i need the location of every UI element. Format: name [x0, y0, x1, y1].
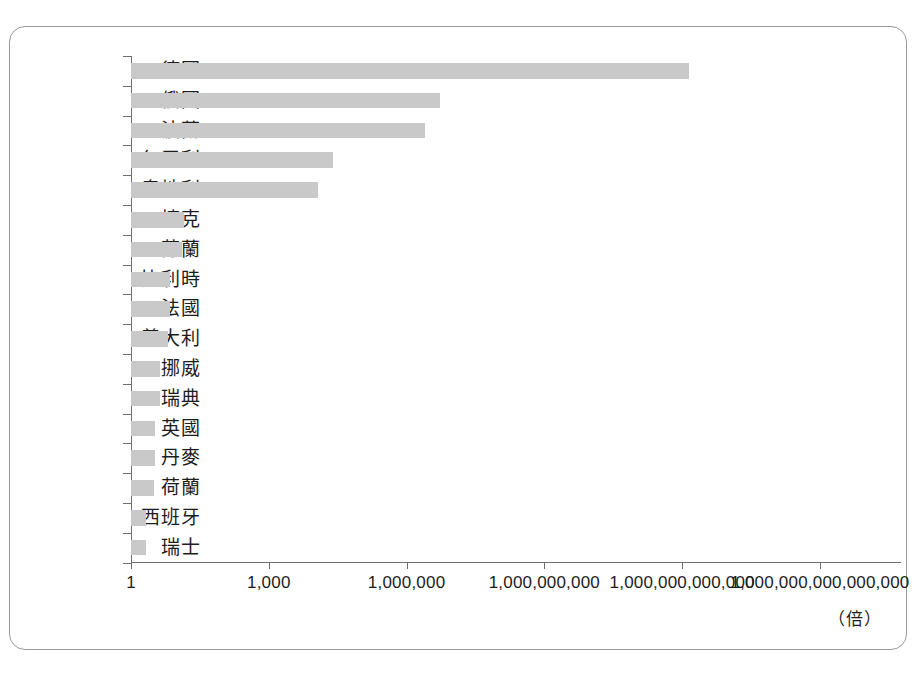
y-axis-tick	[123, 384, 131, 385]
bar	[131, 242, 182, 258]
bar	[131, 301, 170, 317]
y-axis-tick	[123, 205, 131, 206]
x-axis-unit-label: （倍）	[828, 605, 882, 630]
bar	[131, 391, 160, 407]
y-axis-tick	[123, 235, 131, 236]
x-axis-tick	[269, 562, 270, 569]
bar	[131, 450, 155, 466]
x-axis-tick-label: 1,000,000,000,000,000	[730, 573, 909, 593]
category-label: 荷蘭	[161, 473, 201, 503]
x-axis-tick-label: 1,000,000	[368, 573, 445, 593]
category-label: 挪威	[161, 354, 201, 384]
bar-row: 芬蘭	[10, 235, 908, 265]
y-axis-tick	[123, 145, 131, 146]
category-label: 丹麥	[161, 443, 201, 473]
bar	[131, 63, 689, 79]
bar-row: 英國	[10, 414, 908, 444]
x-axis-tick	[544, 562, 545, 569]
y-axis-tick	[123, 533, 131, 534]
bar	[131, 540, 146, 556]
bar-row: 義大利	[10, 324, 908, 354]
bar-row: 瑞士	[10, 533, 908, 563]
bar	[131, 480, 154, 496]
bar-row: 德國	[10, 56, 908, 86]
bar	[131, 361, 160, 377]
x-axis-tick-label: 1,000	[247, 573, 291, 593]
bar	[131, 152, 333, 168]
top-cropped-text	[300, 0, 600, 2]
y-axis-tick	[123, 56, 131, 57]
bar-row: 丹麥	[10, 443, 908, 473]
bar	[131, 123, 425, 139]
bar-chart-plot: 德國俄國波蘭匈牙利奧地利捷克芬蘭比利時法國義大利挪威瑞典英國丹麥荷蘭西班牙瑞士 …	[10, 27, 908, 651]
bar	[131, 510, 146, 526]
y-axis-tick	[123, 443, 131, 444]
x-axis-tick	[131, 562, 132, 569]
x-axis-tick	[820, 562, 821, 569]
bar	[131, 331, 168, 347]
y-axis-tick	[123, 116, 131, 117]
x-axis-tick	[407, 562, 408, 569]
y-axis-tick	[123, 563, 131, 564]
y-axis-tick	[123, 175, 131, 176]
y-axis-tick	[123, 414, 131, 415]
bottom-cropped-text	[14, 668, 434, 679]
bar-row: 俄國	[10, 86, 908, 116]
y-axis-tick	[123, 265, 131, 266]
bar-row: 匈牙利	[10, 145, 908, 175]
y-axis-tick	[123, 324, 131, 325]
bar	[131, 272, 170, 288]
bar	[131, 421, 155, 437]
y-axis-tick	[123, 294, 131, 295]
y-axis-tick	[123, 354, 131, 355]
bar-row: 奧地利	[10, 175, 908, 205]
bar	[131, 93, 440, 109]
bar-row: 波蘭	[10, 116, 908, 146]
bar	[131, 212, 184, 228]
bar-row: 瑞典	[10, 384, 908, 414]
x-axis-tick-label: 1	[126, 573, 136, 593]
category-label: 英國	[161, 414, 201, 444]
chart-card: 德國俄國波蘭匈牙利奧地利捷克芬蘭比利時法國義大利挪威瑞典英國丹麥荷蘭西班牙瑞士 …	[9, 26, 907, 650]
bar-row: 荷蘭	[10, 473, 908, 503]
y-axis-tick	[123, 86, 131, 87]
y-axis-tick	[123, 473, 131, 474]
bar	[131, 182, 318, 198]
bar-row: 挪威	[10, 354, 908, 384]
bar-row: 比利時	[10, 265, 908, 295]
bar-row: 法國	[10, 294, 908, 324]
bar-row: 捷克	[10, 205, 908, 235]
x-axis-tick	[682, 562, 683, 569]
category-label: 西班牙	[141, 503, 201, 533]
y-axis-tick	[123, 503, 131, 504]
category-label: 瑞典	[161, 384, 201, 414]
x-axis-tick-label: 1,000,000,000	[489, 573, 600, 593]
bar-row: 西班牙	[10, 503, 908, 533]
category-label: 瑞士	[161, 533, 201, 563]
